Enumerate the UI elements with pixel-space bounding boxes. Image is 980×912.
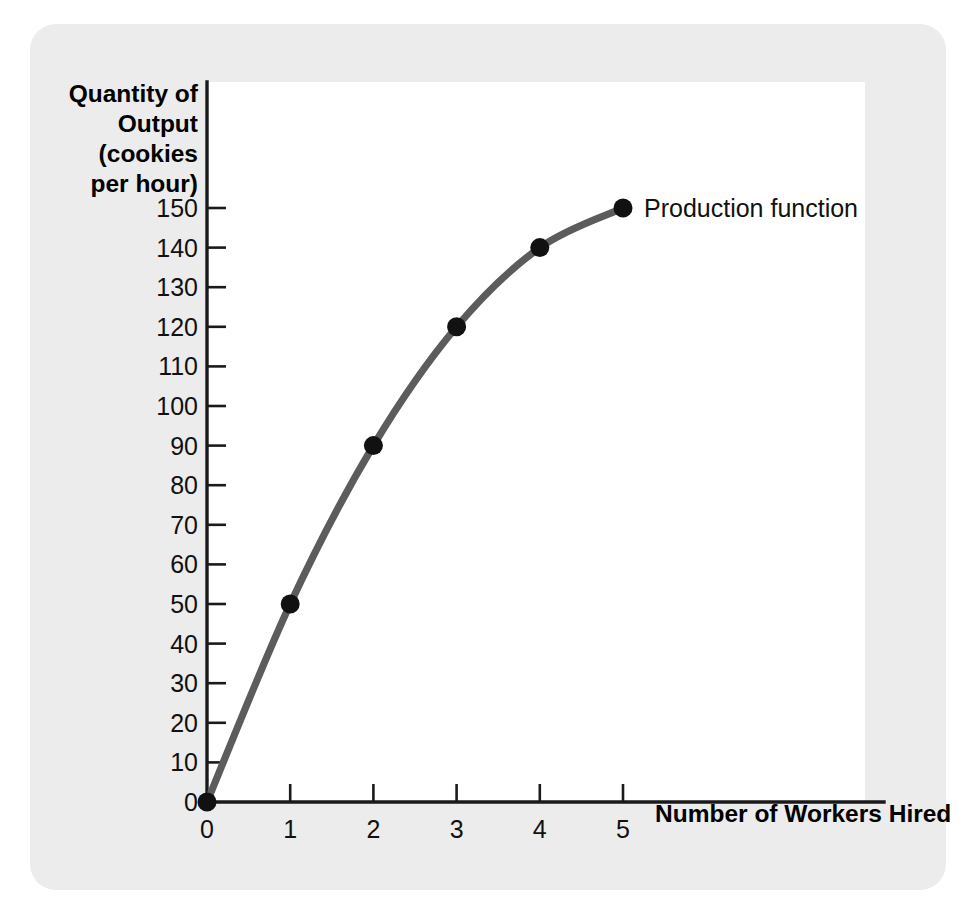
y-axis-title-line: (cookies — [99, 140, 198, 167]
plot-area-background — [207, 82, 865, 802]
y-tick-label: 130 — [156, 273, 198, 301]
y-tick-label: 0 — [184, 788, 198, 816]
data-point-marker — [198, 793, 217, 812]
x-tick-label: 2 — [366, 815, 380, 843]
data-point-marker — [281, 595, 300, 614]
y-tick-label: 120 — [156, 313, 198, 341]
y-axis-title-line: Quantity of — [69, 80, 199, 107]
production-function-annotation: Production function — [644, 194, 858, 222]
y-tick-label: 150 — [156, 194, 198, 222]
x-axis-tick-labels: 012345 — [200, 815, 630, 843]
series-label: Production function — [644, 194, 858, 222]
y-tick-label: 140 — [156, 234, 198, 262]
y-tick-label: 30 — [170, 669, 198, 697]
y-tick-label: 40 — [170, 630, 198, 658]
y-axis-title: Quantity ofOutput(cookiesper hour) — [69, 80, 199, 197]
x-tick-label: 0 — [200, 815, 214, 843]
y-axis-title-line: per hour) — [90, 170, 198, 197]
y-tick-label: 110 — [158, 352, 198, 380]
x-tick-label: 4 — [533, 815, 547, 843]
production-function-chart: 0102030405060708090100110120130140150 01… — [0, 0, 980, 912]
x-tick-label: 1 — [283, 815, 297, 843]
y-tick-label: 90 — [170, 432, 198, 460]
data-point-marker — [364, 436, 383, 455]
y-tick-label: 20 — [170, 709, 198, 737]
y-tick-label: 10 — [170, 748, 198, 776]
x-tick-label: 5 — [616, 815, 630, 843]
x-tick-label: 3 — [450, 815, 464, 843]
x-axis-title: Number of Workers Hired — [655, 800, 951, 827]
y-tick-label: 50 — [170, 590, 198, 618]
data-point-marker — [447, 317, 466, 336]
data-point-marker — [614, 199, 633, 218]
y-tick-label: 80 — [170, 471, 198, 499]
y-axis-tick-labels: 0102030405060708090100110120130140150 — [156, 194, 198, 816]
data-point-marker — [530, 238, 549, 257]
y-tick-label: 70 — [170, 511, 198, 539]
y-tick-label: 100 — [156, 392, 198, 420]
y-tick-label: 60 — [170, 550, 198, 578]
y-axis-title-line: Output — [118, 110, 198, 137]
